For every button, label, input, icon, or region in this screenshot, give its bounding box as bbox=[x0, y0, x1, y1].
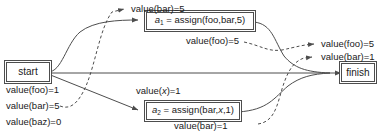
edge-start-to-action2 bbox=[48, 74, 138, 110]
node-start-label: start bbox=[18, 67, 37, 77]
action1-expression: = assign(foo,bar,5) bbox=[164, 14, 246, 25]
dataflow-bar1-to-out bbox=[258, 57, 312, 124]
label-x-value: value(x)=1 bbox=[136, 86, 181, 96]
action2-expression: = assign(bar, bbox=[161, 104, 218, 115]
label-start-foo: value(foo)=1 bbox=[6, 85, 59, 95]
label-bottom-bar: value(bar)=1 bbox=[174, 121, 228, 131]
node-start[interactable]: start bbox=[6, 62, 50, 82]
label-out-bar: value(bar)=1 bbox=[321, 52, 375, 62]
edge-action2-to-finish bbox=[238, 73, 330, 112]
label-mid-foo: value(foo)=5 bbox=[186, 36, 239, 46]
label-out-foo: value(foo)=5 bbox=[321, 39, 374, 49]
label-top-bar: value(bar)=5 bbox=[131, 4, 185, 14]
node-action2[interactable]: a2 = assign(bar,x,1) bbox=[146, 102, 240, 120]
dataflow-bar5-to-top bbox=[60, 9, 124, 107]
node-action2-label: a2 = assign(bar,x,1) bbox=[152, 105, 234, 117]
label-x-suffix: )=1 bbox=[167, 85, 181, 96]
label-start-baz: value(baz)=0 bbox=[6, 117, 61, 127]
diagram-canvas: start finish a1 = assign(foo,bar,5) a2 =… bbox=[0, 0, 379, 139]
action2-expression-tail: ,1) bbox=[223, 104, 234, 115]
label-x-prefix: value( bbox=[136, 85, 162, 96]
node-finish-label: finish bbox=[346, 68, 369, 78]
node-action1-label: a1 = assign(foo,bar,5) bbox=[155, 15, 246, 27]
label-start-bar: value(bar)=5 bbox=[6, 101, 60, 111]
node-finish[interactable]: finish bbox=[341, 63, 375, 82]
node-action1[interactable]: a1 = assign(foo,bar,5) bbox=[146, 12, 254, 30]
